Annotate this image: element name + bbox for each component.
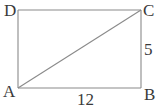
vertex-label-d: D [4, 1, 16, 20]
length-label-ab: 12 [77, 90, 94, 109]
length-label-bc: 5 [144, 40, 153, 59]
geometry-diagram: D C A B 12 5 [0, 0, 160, 109]
vertex-label-b: B [144, 85, 155, 104]
vertex-label-a: A [3, 82, 16, 101]
diagonal-ac [18, 10, 141, 88]
vertex-label-c: C [143, 1, 154, 20]
